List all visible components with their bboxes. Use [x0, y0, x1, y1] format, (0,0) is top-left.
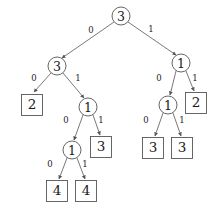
- node-value-n4: 1: [158, 100, 178, 113]
- leaf-value-l1: 3: [91, 140, 111, 154]
- leaf-value-l0: 2: [22, 98, 42, 112]
- leaf-value-l2: 4: [47, 184, 67, 198]
- leaf-value-l6: 3: [172, 141, 192, 155]
- edge-n2-n4: [170, 71, 176, 95]
- edge-label-e1: 1: [146, 25, 156, 34]
- edge-label-e0: 0: [86, 26, 96, 35]
- edge-n3-n5: [74, 115, 83, 140]
- edge-label-e8: 0: [154, 74, 164, 83]
- node-value-n5: 1: [62, 145, 82, 158]
- decision-tree-figure: 3 3 1 1 1 1 2 3 4 4 2 3 3 0 1 0 1 0 1 0 …: [0, 0, 212, 214]
- edge-label-e6: 0: [45, 160, 55, 169]
- edge-n5-l2: [59, 158, 67, 179]
- node-value-n1: 3: [47, 61, 67, 74]
- edge-label-e11: 1: [177, 116, 187, 125]
- node-shape-layer: [48, 7, 190, 159]
- node-value-n0: 3: [111, 11, 131, 24]
- edge-n4-l5: [155, 113, 163, 136]
- leaf-value-l4: 2: [186, 96, 206, 110]
- edge-label-e10: 0: [141, 116, 151, 125]
- node-value-n3: 1: [78, 102, 98, 115]
- leaf-value-l3: 4: [76, 184, 96, 198]
- edge-label-e7: 1: [80, 160, 90, 169]
- edge-label-e9: 1: [190, 74, 200, 83]
- edge-label-e2: 0: [29, 74, 39, 83]
- edge-label-e5: 1: [96, 116, 106, 125]
- node-value-n2: 1: [171, 58, 191, 71]
- edge-label-e3: 1: [73, 74, 83, 83]
- leaf-value-l5: 3: [143, 141, 163, 155]
- edge-label-e4: 0: [61, 116, 71, 125]
